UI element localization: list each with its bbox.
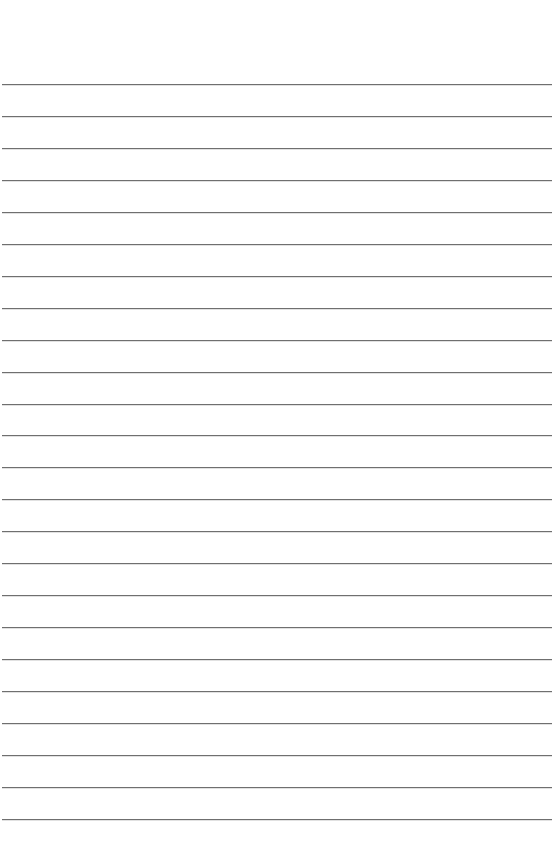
lined-paper-page (0, 0, 554, 841)
ruled-line (2, 435, 552, 436)
ruled-line (2, 499, 552, 500)
ruled-line (2, 819, 552, 820)
ruled-line (2, 308, 552, 309)
ruled-line (2, 148, 552, 149)
ruled-line (2, 595, 552, 596)
ruled-line (2, 372, 552, 373)
ruled-line (2, 84, 552, 85)
ruled-line (2, 531, 552, 532)
ruled-line (2, 116, 552, 117)
ruled-line (2, 467, 552, 468)
ruled-line (2, 627, 552, 628)
ruled-line (2, 659, 552, 660)
ruled-line (2, 276, 552, 277)
ruled-line (2, 404, 552, 405)
ruled-line (2, 563, 552, 564)
ruled-line (2, 691, 552, 692)
ruled-line (2, 755, 552, 756)
ruled-line (2, 787, 552, 788)
ruled-line (2, 180, 552, 181)
ruled-line (2, 723, 552, 724)
ruled-line (2, 340, 552, 341)
ruled-line (2, 244, 552, 245)
ruled-line (2, 212, 552, 213)
